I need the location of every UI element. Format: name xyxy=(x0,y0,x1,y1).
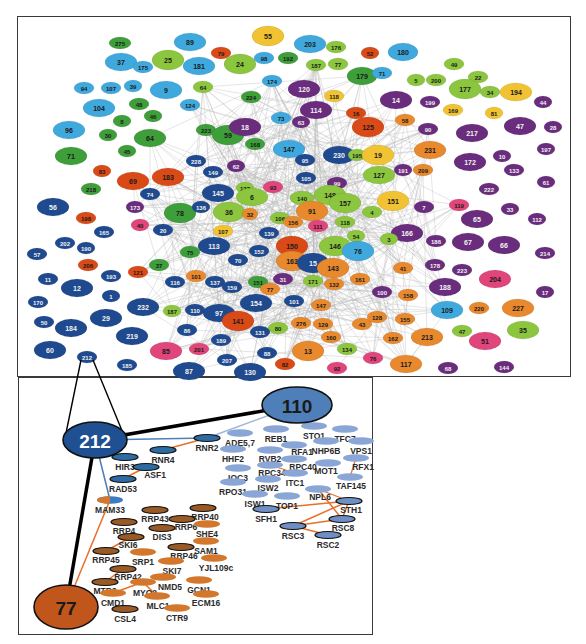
network-node[interactable]: 118 xyxy=(335,216,355,228)
network-node[interactable]: 19 xyxy=(362,145,394,165)
network-node[interactable]: 133 xyxy=(504,164,524,176)
network-node[interactable]: 50 xyxy=(34,316,54,328)
network-node[interactable]: 41 xyxy=(393,262,413,274)
network-node[interactable]: 67 xyxy=(452,233,484,251)
network-node[interactable]: 45 xyxy=(118,145,136,157)
network-node[interactable]: 202 xyxy=(55,237,75,249)
network-node[interactable]: 131 xyxy=(250,326,270,338)
network-node[interactable]: 36 xyxy=(213,202,245,222)
network-node[interactable]: 217 xyxy=(456,124,488,142)
network-node[interactable]: 180 xyxy=(388,43,418,61)
network-node[interactable]: 112 xyxy=(528,213,546,225)
gene-node[interactable]: ITC1 xyxy=(282,469,308,488)
network-node[interactable]: 170 xyxy=(28,296,48,308)
network-node[interactable]: 228 xyxy=(186,155,206,167)
network-node[interactable]: 188 xyxy=(429,278,461,296)
network-node[interactable]: 145 xyxy=(202,184,234,202)
network-node[interactable]: 4 xyxy=(362,206,382,218)
network-node[interactable]: 186 xyxy=(426,235,446,247)
network-node[interactable]: 275 xyxy=(109,37,131,49)
network-node[interactable]: 64 xyxy=(134,129,166,147)
network-node[interactable]: 174 xyxy=(262,75,282,87)
network-node[interactable]: 37 xyxy=(149,259,169,271)
gene-node[interactable]: VPS1 xyxy=(348,437,374,456)
network-node[interactable]: 88 xyxy=(257,347,277,359)
network-node[interactable]: 175 xyxy=(133,61,153,73)
network-node[interactable]: 98 xyxy=(254,52,274,64)
network-node[interactable]: 141 xyxy=(222,311,254,331)
network-node[interactable]: 169 xyxy=(443,104,463,116)
gene-node[interactable]: RSC2 xyxy=(315,532,341,551)
network-node[interactable]: 128 xyxy=(367,311,387,323)
network-node[interactable]: 222 xyxy=(479,183,499,195)
network-node[interactable]: 62 xyxy=(227,160,245,172)
network-node[interactable]: 151 xyxy=(377,191,409,211)
gene-node[interactable]: REB1 xyxy=(263,425,289,444)
network-node[interactable]: 109 xyxy=(431,301,463,319)
cluster-node-110[interactable]: 110 xyxy=(262,387,332,423)
network-node[interactable]: 173 xyxy=(126,201,144,213)
gene-node[interactable]: RRP43 xyxy=(141,507,169,525)
network-node[interactable]: 94 xyxy=(74,82,94,94)
network-node[interactable]: 105 xyxy=(296,172,316,184)
network-node[interactable]: 33 xyxy=(501,203,519,215)
network-node[interactable]: 172 xyxy=(454,153,486,171)
network-node[interactable]: 31 xyxy=(273,273,293,285)
network-node[interactable]: 11 xyxy=(38,273,58,285)
network-node[interactable]: 37 xyxy=(105,53,137,71)
network-node[interactable]: 219 xyxy=(116,327,148,345)
gene-node[interactable]: RSC3 xyxy=(280,523,306,542)
network-node[interactable]: 111 xyxy=(308,220,328,232)
network-node[interactable]: 29 xyxy=(90,309,122,327)
network-node[interactable]: 168 xyxy=(245,138,265,150)
network-node[interactable]: 74 xyxy=(140,188,160,200)
network-node[interactable]: 40 xyxy=(131,219,149,231)
network-node[interactable]: 178 xyxy=(425,259,445,271)
network-node[interactable]: 120 xyxy=(288,80,320,98)
network-node[interactable]: 224 xyxy=(241,91,261,103)
network-node[interactable]: 160 xyxy=(321,331,341,343)
gene-node[interactable]: CSL4 xyxy=(112,606,138,625)
network-node[interactable]: 132 xyxy=(324,278,344,290)
network-node[interactable]: 64 xyxy=(193,81,213,93)
gene-node[interactable]: ECM16 xyxy=(192,590,221,608)
network-node[interactable]: 117 xyxy=(390,355,422,373)
network-node[interactable]: 70 xyxy=(228,254,248,266)
network-node[interactable]: 35 xyxy=(507,321,539,339)
network-node[interactable]: 86 xyxy=(177,324,197,336)
gene-node[interactable]: STH1 xyxy=(336,498,362,516)
network-node[interactable]: 194 xyxy=(500,83,532,101)
network-node[interactable]: 44 xyxy=(534,96,552,108)
network-node[interactable]: 1 xyxy=(102,290,120,302)
gene-node[interactable]: RAD53 xyxy=(109,476,137,495)
network-node[interactable]: 63 xyxy=(292,116,310,128)
network-node[interactable]: 77 xyxy=(260,283,280,295)
network-node[interactable]: 214 xyxy=(535,247,555,259)
gene-node[interactable]: ADE5,7 xyxy=(225,429,255,448)
network-node[interactable]: 58 xyxy=(395,114,415,126)
network-node[interactable]: 184 xyxy=(55,319,87,337)
network-node[interactable]: 155 xyxy=(395,313,415,325)
gene-node[interactable]: RRP45 xyxy=(92,548,120,566)
network-node[interactable]: 57 xyxy=(27,248,47,260)
network-node[interactable]: 157 xyxy=(329,193,361,213)
network-node[interactable]: 181 xyxy=(183,57,215,75)
network-node[interactable]: 7 xyxy=(414,201,434,213)
network-node[interactable]: 32 xyxy=(242,208,258,220)
network-node[interactable]: 12 xyxy=(61,279,93,297)
network-node[interactable]: 156 xyxy=(283,216,303,228)
network-node[interactable]: 276 xyxy=(291,317,311,329)
network-node[interactable]: 154 xyxy=(240,294,272,312)
network-node[interactable]: 192 xyxy=(278,52,298,64)
gene-node[interactable]: YJL109c xyxy=(199,554,234,573)
network-node[interactable]: 17 xyxy=(536,286,554,298)
gene-node[interactable]: SKI6 xyxy=(118,534,144,551)
network-node[interactable]: 76 xyxy=(363,352,383,364)
network-node[interactable]: 93 xyxy=(263,181,283,193)
network-node[interactable]: 52 xyxy=(361,47,379,59)
network-node[interactable]: 10 xyxy=(493,150,511,162)
gene-node[interactable]: CTR9 xyxy=(164,604,190,623)
network-node[interactable]: 158 xyxy=(398,289,418,301)
gene-node[interactable]: RNR2 xyxy=(194,435,220,454)
network-node[interactable]: 104 xyxy=(83,99,115,117)
